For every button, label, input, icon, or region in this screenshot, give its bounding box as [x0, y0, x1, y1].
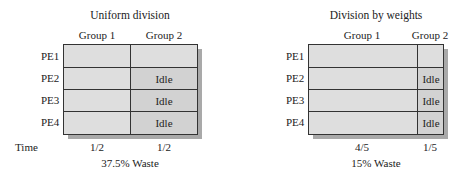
- row-label-pe3: PE3: [41, 95, 59, 106]
- row-divider: [309, 111, 443, 112]
- diagram-title: Uniform division: [90, 10, 170, 22]
- row-label-pe3: PE3: [286, 95, 304, 106]
- group-1-time: 1/2: [90, 142, 104, 153]
- group-divider: [130, 45, 131, 134]
- idle-label-pe4: Idle: [155, 118, 172, 129]
- group-2-time: 1/2: [157, 142, 171, 153]
- group-2-time: 1/5: [423, 142, 437, 153]
- row-divider: [309, 67, 443, 68]
- waste-label: 15% Waste: [351, 158, 400, 169]
- idle-label-pe3: Idle: [155, 96, 172, 107]
- idle-label-pe3: Idle: [422, 96, 439, 107]
- diagram-title: Division by weights: [330, 10, 423, 22]
- group-divider: [417, 45, 418, 134]
- row-divider: [309, 89, 443, 90]
- group-1-time: 4/5: [355, 142, 369, 153]
- waste-label: 37.5% Waste: [101, 158, 159, 169]
- row-label-pe1: PE1: [286, 51, 304, 62]
- row-label-pe2: PE2: [286, 73, 304, 84]
- group-1-header: Group 1: [344, 30, 380, 41]
- row-label-pe4: PE4: [286, 117, 304, 128]
- time-axis-label: Time: [15, 142, 38, 153]
- group-1-header: Group 1: [79, 30, 115, 41]
- row-label-pe2: PE2: [41, 73, 59, 84]
- idle-label-pe2: Idle: [422, 74, 439, 85]
- row-label-pe1: PE1: [41, 51, 59, 62]
- idle-label-pe2: Idle: [155, 74, 172, 85]
- row-label-pe4: PE4: [41, 117, 59, 128]
- schedule-grid: Idle Idle Idle: [308, 44, 444, 135]
- idle-label-pe4: Idle: [422, 118, 439, 129]
- group-2-header: Group 2: [412, 30, 448, 41]
- group-2-header: Group 2: [146, 30, 182, 41]
- schedule-grid: Idle Idle Idle: [63, 44, 198, 135]
